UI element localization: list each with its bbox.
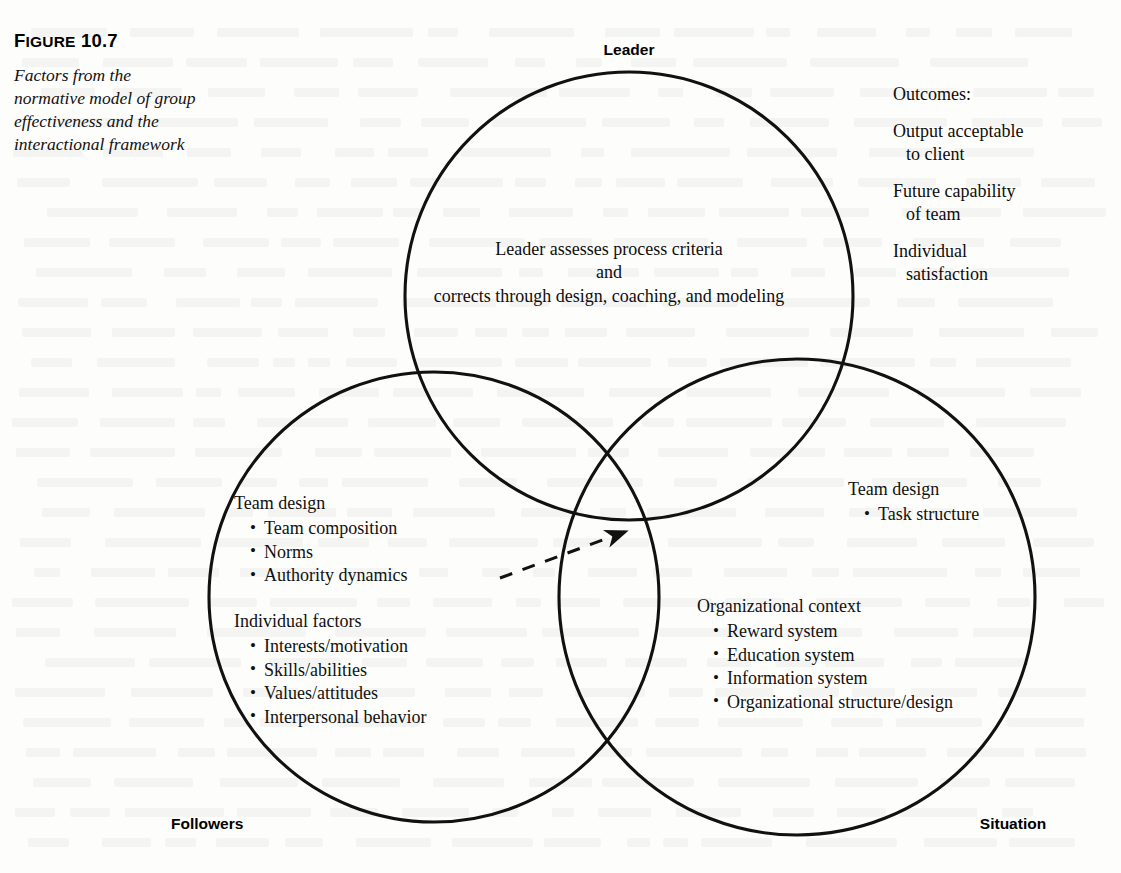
situation-organizational-context-block: Organizational context Reward system Edu… [697, 595, 953, 714]
circle-followers [209, 372, 659, 822]
label-followers: Followers [171, 815, 243, 833]
leader-text-line-1: Leader assesses process criteria [389, 238, 829, 261]
list-item: Interpersonal behavior [250, 706, 426, 729]
leader-text-line-3: corrects through design, coaching, and m… [389, 285, 829, 308]
list-item: Skills/abilities [250, 659, 426, 682]
outcomes-block: Outcomes: Output acceptable to client Fu… [893, 83, 1023, 286]
outcome-line-1: Output acceptable [893, 120, 1023, 143]
outcome-line-2: to client [893, 143, 1023, 166]
situation-team-design-heading: Team design [848, 478, 979, 501]
outcome-line-2: satisfaction [893, 263, 1023, 286]
list-item: Education system [713, 644, 953, 667]
situation-organizational-context-list: Reward system Education system Informati… [697, 620, 953, 714]
followers-individual-factors-list: Interests/motivation Skills/abilities Va… [234, 635, 426, 729]
outcome-item: Future capability of team [893, 180, 1023, 226]
list-item: Values/attitudes [250, 682, 426, 705]
outcome-item: Individual satisfaction [893, 240, 1023, 286]
list-item: Organizational structure/design [713, 691, 953, 714]
list-item: Team composition [250, 517, 407, 540]
list-item: Interests/motivation [250, 635, 426, 658]
list-item: Norms [250, 541, 407, 564]
outcome-line-2: of team [893, 203, 1023, 226]
label-situation: Situation [980, 815, 1046, 833]
followers-individual-factors-block: Individual factors Interests/motivation … [234, 610, 426, 729]
outcome-item: Output acceptable to client [893, 120, 1023, 166]
figure-page: FIGURE 10.7 Factors from the normative m… [0, 0, 1121, 873]
outcome-line-1: Future capability [893, 180, 1023, 203]
list-item: Information system [713, 667, 953, 690]
leader-circle-text: Leader assesses process criteria and cor… [389, 238, 829, 308]
label-leader: Leader [604, 41, 655, 59]
followers-individual-factors-heading: Individual factors [234, 610, 426, 633]
followers-team-design-block: Team design Team composition Norms Autho… [234, 492, 407, 588]
leader-text-line-2: and [389, 261, 829, 284]
list-item: Task structure [864, 503, 979, 526]
situation-team-design-block: Team design Task structure [848, 478, 979, 527]
followers-team-design-heading: Team design [234, 492, 407, 515]
outcomes-heading: Outcomes: [893, 83, 1023, 106]
list-item: Authority dynamics [250, 564, 407, 587]
list-item: Reward system [713, 620, 953, 643]
situation-organizational-context-heading: Organizational context [697, 595, 953, 618]
outcome-line-1: Individual [893, 240, 1023, 263]
situation-team-design-list: Task structure [848, 503, 979, 526]
followers-team-design-list: Team composition Norms Authority dynamic… [234, 517, 407, 587]
